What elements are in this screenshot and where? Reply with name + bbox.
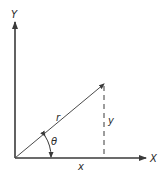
theta-label: θ xyxy=(51,136,57,147)
x-component-label: x xyxy=(77,161,84,172)
y-axis-label: Y xyxy=(11,9,18,20)
x-axis-label: X xyxy=(149,153,158,164)
r-label: r xyxy=(56,112,61,123)
polar-coordinate-diagram: Y X r y x θ xyxy=(0,0,164,178)
y-component-label: y xyxy=(107,115,115,126)
